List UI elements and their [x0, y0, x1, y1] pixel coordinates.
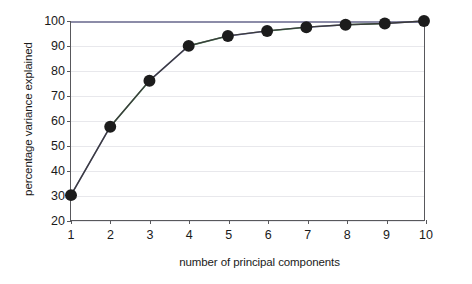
overlay-series-line	[71, 21, 424, 195]
y-tick-label: 50	[51, 139, 65, 153]
data-point-marker: 10: 100	[418, 15, 430, 27]
data-point-marker: 1: 30	[65, 189, 77, 201]
y-axis-title: percentage variance explained	[22, 9, 34, 229]
x-tick-mark	[347, 220, 348, 224]
x-tick-mark	[150, 220, 151, 224]
series-polyline	[71, 21, 424, 195]
data-point-marker: 2: 57.5	[104, 121, 116, 133]
data-point-marker: 9: 99	[379, 18, 391, 30]
y-tick-label: 20	[51, 214, 65, 228]
y-tick-label: 70	[51, 89, 65, 103]
x-tick-mark	[189, 220, 190, 224]
x-tick-label: 10	[419, 228, 433, 242]
data-point-marker: 5: 94	[222, 30, 234, 42]
data-point-marker: 3: 76	[143, 75, 155, 87]
x-tick-mark	[387, 220, 388, 224]
x-tick-label: 3	[146, 228, 153, 242]
x-tick-label: 7	[304, 228, 311, 242]
y-tick-label: 30	[51, 189, 65, 203]
x-tick-label: 8	[344, 228, 351, 242]
x-tick-label: 6	[265, 228, 272, 242]
x-tick-label: 1	[68, 228, 75, 242]
x-tick-mark	[229, 220, 230, 224]
x-tick-label: 5	[225, 228, 232, 242]
data-point-marker: 4: 90	[183, 40, 195, 52]
gridline	[71, 221, 424, 222]
x-tick-mark	[308, 220, 309, 224]
x-tick-mark	[110, 220, 111, 224]
data-point-marker: 7: 97.5	[300, 21, 312, 33]
y-tick-label: 100	[44, 14, 65, 28]
x-axis-title: number of principal components	[57, 256, 462, 268]
x-tick-mark	[426, 220, 427, 224]
primary-series-markers: 1: 302: 57.53: 764: 905: 946: 967: 97.58…	[65, 15, 430, 201]
x-tick-label: 4	[186, 228, 193, 242]
y-tick-label: 80	[51, 64, 65, 78]
x-tick-label: 2	[107, 228, 114, 242]
data-point-marker: 6: 96	[261, 25, 273, 37]
plot-area: 2030405060708090100 12345678910 1: 302: …	[70, 21, 425, 221]
x-tick-mark	[71, 220, 72, 224]
y-tick-label: 90	[51, 39, 65, 53]
x-tick-mark	[268, 220, 269, 224]
y-tick-label: 60	[51, 114, 65, 128]
data-point-marker: 8: 98.5	[340, 19, 352, 31]
y-tick-label: 40	[51, 164, 65, 178]
chart-figure: percentage variance explained 2030405060…	[0, 0, 472, 284]
x-tick-label: 9	[383, 228, 390, 242]
data-series-layer: 1: 302: 57.53: 764: 905: 946: 967: 97.58…	[71, 21, 424, 220]
primary-series-line	[71, 21, 424, 195]
